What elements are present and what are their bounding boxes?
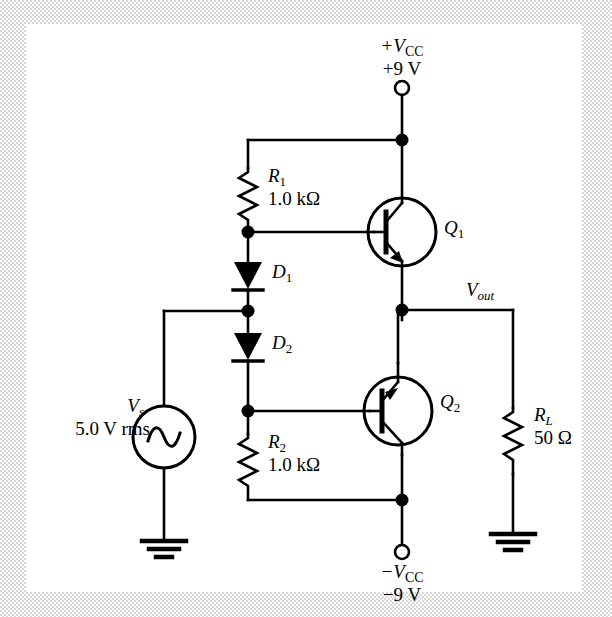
label-vcc-negative: −VCC −9 V — [340, 562, 464, 605]
label-r1: R1 1.0 kΩ — [268, 166, 320, 209]
label-q2: Q2 — [440, 392, 460, 415]
ground-symbol-load — [491, 534, 535, 550]
label-vs: Vs 5.0 V rms — [38, 396, 150, 439]
label-vout: Vout — [466, 280, 494, 303]
ground-symbol-source — [142, 541, 186, 557]
r1-ref: R — [268, 165, 280, 186]
d1-subscript: 1 — [286, 270, 293, 285]
vs-ref: V — [127, 395, 139, 416]
diode-d1-triangle — [234, 262, 262, 289]
r2-value: 1.0 kΩ — [268, 455, 320, 476]
vcc-negative-value: −9 V — [340, 585, 464, 606]
label-rl: RL 50 Ω — [534, 405, 572, 448]
transistor-q2-collector-lead — [382, 421, 402, 443]
figure-container: +VCC +9 V −VCC −9 V R1 1.0 kΩ R2 1.0 kΩ … — [0, 0, 612, 617]
vcc-negative-terminal-circle — [395, 545, 409, 559]
label-d1: D1 — [272, 262, 292, 285]
rl-ref: R — [534, 404, 546, 425]
vs-subscript: s — [139, 404, 144, 419]
vout-ref: V — [466, 279, 478, 300]
d2-ref: D — [272, 332, 286, 353]
junction-dot-vcc-positive — [396, 134, 409, 147]
q1-ref: Q — [444, 217, 458, 238]
vcc-positive-value: +9 V — [340, 59, 464, 80]
vcc-positive-subscript: CC — [405, 44, 424, 59]
junction-dot-vcc-negative — [396, 494, 409, 507]
vcc-positive-symbol: +V — [380, 35, 404, 56]
r1-value: 1.0 kΩ — [268, 189, 320, 210]
diode-d2-triangle — [234, 333, 262, 360]
resistor-r1-body — [239, 168, 257, 232]
rl-value: 50 Ω — [534, 428, 572, 449]
d1-ref: D — [272, 261, 286, 282]
r1-subscript: 1 — [280, 174, 287, 189]
d2-subscript: 2 — [286, 341, 293, 356]
q2-ref: Q — [440, 391, 454, 412]
r2-subscript: 2 — [280, 440, 287, 455]
junction-dot-q1-base — [242, 226, 255, 239]
label-d2: D2 — [272, 333, 292, 356]
rl-subscript: L — [546, 413, 553, 428]
vcc-negative-subscript: CC — [405, 570, 424, 585]
vcc-positive-terminal-circle — [395, 81, 409, 95]
circuit-schematic — [0, 0, 612, 617]
label-r2: R2 1.0 kΩ — [268, 432, 320, 475]
q2-subscript: 2 — [454, 400, 461, 415]
vcc-negative-symbol: −V — [380, 561, 404, 582]
junction-dot-q2-base — [242, 405, 255, 418]
junction-dot-diode-midpoint — [242, 305, 255, 318]
resistor-r2-body — [239, 434, 257, 500]
label-q1: Q1 — [444, 218, 464, 241]
r2-ref: R — [268, 431, 280, 452]
junction-dot-vout — [396, 304, 409, 317]
resistor-rl-body — [504, 408, 522, 474]
q1-subscript: 1 — [458, 226, 465, 241]
vs-value: 5.0 V rms — [38, 419, 150, 440]
label-vcc-positive: +VCC +9 V — [340, 36, 464, 79]
vout-subscript: out — [478, 288, 495, 303]
